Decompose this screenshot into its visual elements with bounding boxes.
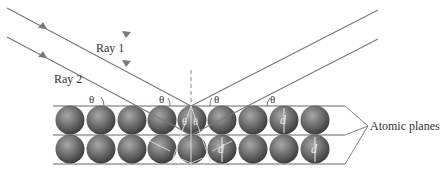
ray-1-label: Ray 1 bbox=[96, 41, 124, 56]
theta-label-3: θ bbox=[214, 93, 219, 105]
theta-inner-left: θ bbox=[182, 116, 187, 127]
theta-arcs bbox=[101, 97, 270, 106]
spacing-label-2: d bbox=[218, 142, 224, 157]
atomic-planes-pointer bbox=[345, 106, 368, 164]
theta-inner-right: θ bbox=[193, 116, 198, 127]
spacing-label-1: d bbox=[280, 113, 286, 128]
atom-row-2 bbox=[56, 135, 330, 164]
atomic-planes-label: Atomic planes bbox=[370, 119, 440, 134]
theta-label-2: θ bbox=[159, 93, 164, 105]
theta-label-4: θ bbox=[270, 93, 275, 105]
arrow-right-icon bbox=[122, 60, 131, 67]
ray-1 bbox=[7, 8, 378, 106]
ray-2-label: Ray 2 bbox=[54, 72, 82, 87]
theta-label-1: θ bbox=[89, 93, 94, 105]
spacing-label-3: d bbox=[311, 142, 317, 157]
arrow-right-icon bbox=[122, 31, 131, 38]
